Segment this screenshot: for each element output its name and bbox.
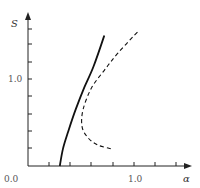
- chart: 0.0 1.0 1.0 α S: [0, 0, 200, 188]
- y-ticks: [28, 29, 32, 148]
- plot-area: [60, 31, 138, 166]
- curve-solid: [60, 36, 105, 167]
- x-axis-arrow-icon: [184, 163, 192, 169]
- x-tick-label-0: 0.0: [4, 174, 19, 184]
- y-axis-arrow-icon: [25, 12, 31, 20]
- y-tick-label-1: 1.0: [8, 74, 23, 84]
- y-axis-label: S: [11, 18, 18, 29]
- curve-dashed: [82, 31, 139, 148]
- x-ticks: [49, 162, 176, 166]
- x-axis-label: α: [183, 173, 190, 184]
- x-tick-label-1: 1.0: [128, 174, 143, 184]
